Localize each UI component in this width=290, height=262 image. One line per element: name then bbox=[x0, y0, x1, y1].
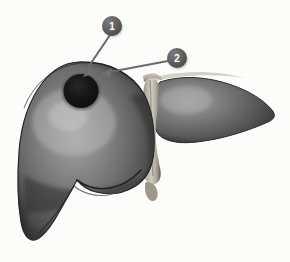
lesion-mass bbox=[64, 74, 99, 108]
callout-2-label: 2 bbox=[174, 53, 180, 64]
liver-illustration: 1 2 bbox=[0, 0, 290, 262]
focal-lesion bbox=[62, 74, 100, 110]
left-lobe-highlight bbox=[160, 86, 212, 114]
liver-figure: 1 2 bbox=[0, 0, 290, 262]
callout-1-label: 1 bbox=[109, 21, 115, 32]
